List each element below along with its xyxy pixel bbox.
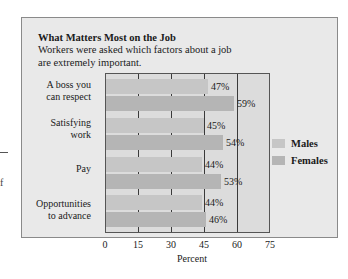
bar-females: [106, 212, 206, 227]
chart-subtitle: Workers were asked which factors about a…: [38, 44, 238, 69]
x-tick: 75: [260, 239, 280, 250]
category-line: Pay: [11, 163, 91, 175]
category-line: Satisfying: [11, 117, 91, 129]
category-label-pay: Pay: [11, 163, 91, 175]
bar-females: [106, 135, 223, 150]
category-line: Opportunities: [11, 198, 91, 210]
category-line: work: [11, 129, 91, 141]
value-label: 54%: [226, 137, 244, 148]
stray-text-fragment: f: [0, 177, 3, 188]
x-axis-label: Percent: [152, 253, 232, 264]
legend-item-females: Females: [272, 155, 348, 167]
legend-item-males: Males: [272, 138, 348, 150]
legend-swatch-males: [272, 139, 285, 148]
category-line: A boss you: [11, 79, 91, 91]
chart-panel: What Matters Most on the Job Workers wer…: [21, 17, 338, 238]
category-label-work: Satisfying work: [11, 117, 91, 141]
x-tick: 60: [227, 239, 247, 250]
bar-females: [106, 96, 234, 111]
value-label: 44%: [205, 159, 223, 170]
category-line: can respect: [11, 91, 91, 103]
x-tick: 45: [194, 239, 214, 250]
value-label: 47%: [211, 81, 229, 92]
x-tick: 0: [95, 239, 115, 250]
value-label: 46%: [209, 214, 227, 225]
x-tick: 15: [128, 239, 148, 250]
value-label: 44%: [205, 197, 223, 208]
category-label-advance: Opportunities to advance: [11, 198, 91, 222]
category-label-boss: A boss you can respect: [11, 79, 91, 103]
bar-males: [106, 79, 208, 94]
value-label: 59%: [237, 98, 255, 109]
bar-males: [106, 195, 202, 210]
stray-dash-mark: [0, 152, 8, 153]
plot-area: 47%59%45%54%44%53%44%46%: [105, 73, 270, 233]
bar-males: [106, 157, 202, 172]
legend-swatch-females: [272, 156, 285, 165]
value-label: 53%: [224, 176, 242, 187]
legend-label: Females: [291, 155, 328, 166]
chart-title: What Matters Most on the Job: [38, 32, 176, 44]
legend-label: Males: [291, 138, 318, 149]
bar-males: [106, 118, 204, 133]
value-label: 45%: [207, 120, 225, 131]
category-line: to advance: [11, 210, 91, 222]
bar-females: [106, 174, 221, 189]
x-tick: 30: [161, 239, 181, 250]
